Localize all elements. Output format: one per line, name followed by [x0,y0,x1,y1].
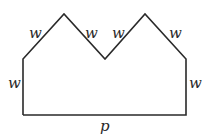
label-left-side: w [8,74,21,92]
polygon-outline [23,14,186,115]
label-right-side: w [189,74,202,92]
label-peak1-left: w [29,24,42,42]
label-peak2-left: w [112,24,125,42]
label-peak2-right: w [169,24,182,42]
label-peak1-right: w [85,24,98,42]
crown-polygon-diagram: w w w w w w p [0,0,210,137]
label-bottom: p [100,117,110,135]
